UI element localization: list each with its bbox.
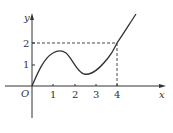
x-axis-arrow-icon (159, 84, 166, 88)
function-curve (32, 14, 136, 86)
x-tick-label-1: 1 (50, 89, 56, 100)
y-tick-label-2: 2 (23, 38, 29, 49)
y-axis-arrow-icon (30, 13, 34, 20)
y-tick-label-1: 1 (23, 59, 29, 70)
x-tick-label-4: 4 (114, 89, 120, 100)
y-axis-label: y (23, 12, 30, 23)
function-graph-figure: y x O 1 2 3 4 1 2 (0, 0, 173, 133)
x-tick-label-2: 2 (72, 89, 78, 100)
origin-label: O (21, 88, 29, 99)
graph-svg: y x O 1 2 3 4 1 2 (0, 0, 173, 133)
x-axis-label: x (159, 89, 165, 100)
x-tick-label-3: 3 (93, 89, 99, 100)
